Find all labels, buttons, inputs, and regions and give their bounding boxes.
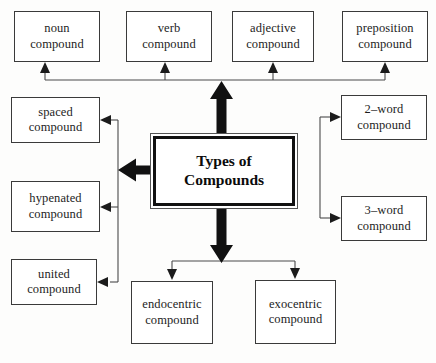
node-noun-compound[interactable]: noun compound (14, 11, 100, 62)
right-branch-connector (320, 117, 331, 218)
node-hypenated-compound[interactable]: hypenated compound (11, 181, 100, 232)
top-branch-connector (45, 70, 385, 80)
thick-arrow-down (210, 209, 233, 263)
bottom-branch-arrowheads (167, 268, 300, 280)
node-3-word-compound[interactable]: 3–word compound (341, 196, 427, 241)
node-label-line2: compound (357, 219, 411, 234)
node-label-line2: compound (27, 282, 81, 297)
node-exocentric-compound[interactable]: exocentric compound (255, 280, 336, 344)
left-branch-connector (110, 120, 118, 282)
node-adjective-compound[interactable]: adjective compound (232, 11, 314, 62)
node-label-line1: spaced (38, 105, 73, 120)
node-endocentric-compound[interactable]: endocentric compound (131, 281, 213, 344)
center-node-label-line2: Compounds (184, 171, 264, 190)
node-2-word-compound[interactable]: 2–word compound (341, 95, 427, 140)
node-label-line1: united (38, 267, 70, 282)
node-label-line2: compound (246, 37, 300, 52)
node-label-line1: exocentric (269, 297, 322, 312)
thick-arrow-up (210, 81, 233, 136)
node-label-line2: compound (357, 118, 411, 133)
node-label-line2: compound (30, 37, 84, 52)
node-label-line1: adjective (250, 21, 296, 36)
node-label-line2: compound (145, 313, 199, 328)
compound-types-diagram: noun compound verb compound adjective co… (0, 0, 436, 363)
center-node-label-line1: Types of (196, 152, 251, 171)
node-united-compound[interactable]: united compound (11, 259, 97, 305)
node-label-line1: preposition (356, 21, 413, 36)
node-label-line2: compound (358, 37, 412, 52)
node-label-line1: noun (44, 21, 69, 36)
node-label-line2: compound (29, 207, 83, 222)
node-label-line1: 3–word (365, 203, 404, 218)
center-node-types-of-compounds[interactable]: Types of Compounds (150, 133, 298, 209)
node-preposition-compound[interactable]: preposition compound (342, 11, 428, 62)
center-node-inner: Types of Compounds (153, 136, 295, 206)
node-label-line1: 2–word (365, 102, 404, 117)
node-spaced-compound[interactable]: spaced compound (11, 97, 100, 143)
node-label-line1: hypenated (29, 191, 81, 206)
node-label-line1: verb (158, 21, 181, 36)
node-label-line2: compound (29, 120, 83, 135)
top-branch-arrowheads (40, 62, 390, 73)
bottom-branch-connector (172, 261, 295, 270)
node-label-line2: compound (142, 37, 196, 52)
node-verb-compound[interactable]: verb compound (126, 11, 212, 62)
right-branch-arrowheads (330, 112, 341, 223)
node-label-line2: compound (269, 312, 323, 327)
node-label-line1: endocentric (142, 297, 201, 312)
